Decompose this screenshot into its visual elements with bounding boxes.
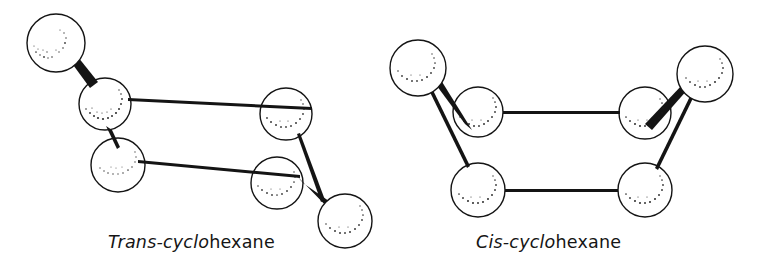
caption-cis-cyclohexane: Cis-cyclohexane	[476, 232, 621, 252]
caption-trans-stereo-prefix: Trans-cyclo	[108, 232, 209, 252]
bond-cis-ring2-ring4	[505, 189, 618, 192]
atom-sphere-trans-2	[79, 78, 131, 130]
caption-trans-cyclohexane: Trans-cyclohexane	[108, 232, 275, 252]
atom-sphere-trans-4	[260, 88, 312, 140]
atom-sphere-cis-5	[618, 163, 672, 217]
bond-wedge-cis-right	[645, 84, 688, 130]
atom-sphere-trans-6	[318, 194, 372, 248]
sphere-shading-stipple	[99, 151, 136, 174]
atom-sphere-cis-3	[451, 163, 505, 217]
caption-cis-suffix: hexane	[555, 232, 621, 252]
bond-trans-ring1-ring3	[128, 98, 312, 110]
sphere-shading-stipple	[458, 175, 497, 204]
sphere-shading-stipple	[266, 99, 305, 128]
caption-cis-stereo-prefix: Cis-cyclo	[476, 232, 555, 252]
molecule-cis-cyclohexane	[390, 40, 733, 217]
atom-sphere-trans-1	[27, 14, 85, 72]
molecule-trans-cyclohexane	[27, 14, 372, 248]
sphere-shading-stipple	[85, 89, 123, 120]
atom-sphere-cis-6	[677, 46, 733, 102]
sphere-shading-stipple	[625, 175, 664, 204]
atom-sphere-trans-5	[251, 157, 303, 209]
atom-sphere-cis-1	[390, 40, 446, 96]
caption-trans-suffix: hexane	[209, 232, 275, 252]
bond-trans-ring2-ring4	[138, 160, 300, 178]
figure-root: Trans-cyclohexane Cis-cyclohexane	[0, 0, 768, 276]
bond-cis-ring1-ring3	[503, 111, 620, 114]
